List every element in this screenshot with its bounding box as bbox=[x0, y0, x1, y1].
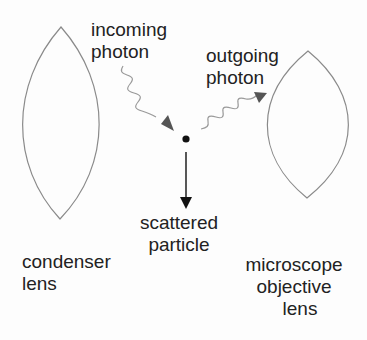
outgoing-photon-wave bbox=[201, 92, 267, 129]
incoming-photon-label: incoming photon bbox=[91, 19, 167, 63]
outgoing-photon-label-line2: photon bbox=[206, 67, 279, 89]
condenser-lens-label-line2: lens bbox=[22, 273, 111, 295]
incoming-photon-label-line1: incoming bbox=[91, 19, 167, 41]
objective-lens-label-line2: objective bbox=[236, 276, 352, 298]
particle-arrowhead bbox=[180, 197, 192, 209]
particle-dot bbox=[182, 135, 189, 142]
objective-lens-label-line3: lens bbox=[236, 298, 352, 320]
objective-lens-label-line1: microscope bbox=[236, 254, 352, 276]
diagram-canvas: incoming photon outgoing photon scattere… bbox=[0, 0, 367, 340]
scattered-particle-label-line2: particle bbox=[129, 234, 229, 256]
incoming-photon-label-line2: photon bbox=[91, 41, 167, 63]
incoming-photon-wave bbox=[121, 66, 174, 131]
outgoing-photon-arrowhead bbox=[254, 92, 267, 103]
condenser-lens-label: condenser lens bbox=[22, 251, 111, 295]
incoming-photon-arrowhead bbox=[161, 115, 174, 131]
condenser-lens-shape bbox=[23, 27, 100, 219]
objective-lens-shape bbox=[267, 51, 348, 198]
outgoing-photon-label: outgoing photon bbox=[206, 45, 279, 89]
outgoing-photon-label-line1: outgoing bbox=[206, 45, 279, 67]
scattered-particle-label: scattered particle bbox=[129, 212, 229, 256]
particle-arrow bbox=[180, 152, 192, 209]
condenser-lens-label-line1: condenser bbox=[22, 251, 111, 273]
scattered-particle-label-line1: scattered bbox=[129, 212, 229, 234]
objective-lens-label: microscope objective lens bbox=[236, 254, 352, 320]
